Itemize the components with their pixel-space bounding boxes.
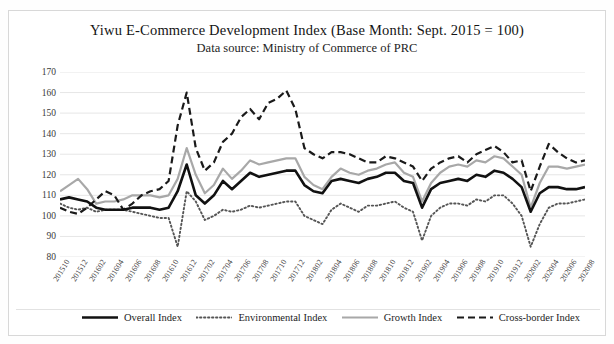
line-chart-svg [60,72,585,257]
legend-swatch-icon [457,313,493,322]
y-axis-tick-label: 80 [30,252,56,262]
y-axis-tick-label: 130 [30,149,56,159]
x-axis-tick-label: 201802 [305,258,325,283]
x-axis-tick-label: 201512 [69,258,89,283]
y-axis-tick-label: 90 [30,231,56,241]
x-axis-tick-label: 201806 [341,258,361,283]
x-axis-tick-label: 201908 [468,258,488,283]
legend-label: Overall Index [124,312,182,323]
x-axis-tick-label: 201808 [359,258,379,283]
chart-legend: Overall IndexEnvironmental IndexGrowth I… [56,308,594,326]
chart-figure: Yiwu E-Commerce Development Index (Base … [0,0,614,344]
legend-item-cross-border-index[interactable]: Cross-border Index [457,312,580,323]
legend-label: Growth Index [384,312,443,323]
x-axis: 2015102015122016022016042016062016082016… [60,258,585,306]
y-axis-tick-label: 170 [30,67,56,77]
y-axis-tick-label: 100 [30,211,56,221]
plot-area [60,72,585,257]
x-axis-tick-label: 201606 [124,258,144,283]
legend-item-growth-index[interactable]: Growth Index [342,312,443,323]
x-axis-tick-label: 201612 [178,258,198,283]
legend-swatch-icon [342,313,378,322]
x-axis-tick-label: 201910 [486,258,506,283]
chart-subtitle: Data source: Ministry of Commerce of PRC [0,41,614,56]
x-axis-tick-label: 201702 [196,258,216,283]
x-axis-tick-label: 201604 [106,258,126,283]
legend-label: Cross-border Index [499,312,580,323]
series-lines [60,91,585,247]
y-axis-tick-label: 140 [30,129,56,139]
x-axis-tick-label: 201602 [87,258,107,283]
legend-item-overall-index[interactable]: Overall Index [82,312,182,323]
legend-swatch-icon [196,313,232,322]
x-axis-tick-label: 201810 [377,258,397,283]
y-axis: 8090100110120130140150160170 [24,72,56,257]
y-axis-tick-label: 160 [30,88,56,98]
x-axis-tick-label: 201710 [269,258,289,283]
x-axis-tick-label: 202002 [522,258,542,283]
x-axis-tick-label: 201912 [504,258,524,283]
x-axis-tick-label: 201706 [232,258,252,283]
x-axis-tick-label: 201708 [250,258,270,283]
y-axis-tick-label: 150 [30,108,56,118]
page-title: Yiwu E-Commerce Development Index (Base … [0,22,614,40]
legend-item-environmental-index[interactable]: Environmental Index [196,312,327,323]
x-axis-tick-label: 201812 [395,258,415,283]
legend-swatch-icon [82,313,118,322]
x-axis-tick-label: 202006 [558,258,578,283]
series-line-environmental-index [60,191,585,247]
y-axis-tick-label: 120 [30,170,56,180]
legend-label: Environmental Index [238,312,327,323]
y-axis-tick-label: 110 [30,190,56,200]
x-axis-tick-label: 201804 [323,258,343,283]
gridlines [60,72,585,257]
x-axis-tick-label: 201902 [413,258,433,283]
x-axis-tick-label: 201608 [142,258,162,283]
chart-title-block: Yiwu E-Commerce Development Index (Base … [0,22,614,56]
x-axis-tick-label: 201610 [160,258,180,283]
x-axis-tick-label: 201904 [431,258,451,283]
x-axis-tick-label: 201906 [450,258,470,283]
x-axis-tick-label: 201704 [214,258,234,283]
x-axis-tick-label: 202004 [540,258,560,283]
x-axis-tick-label: 201712 [287,258,307,283]
